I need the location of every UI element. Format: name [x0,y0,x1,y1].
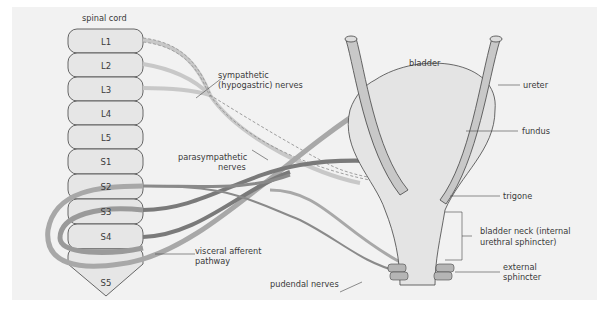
parasympathetic-label-1: parasympathetic [178,152,247,162]
bladder-label: bladder [409,58,440,68]
sympathetic-label-2: (hypogastric) nerves [218,80,303,90]
segment-l2: L2 [76,61,136,71]
spinal-cord-label: spinal cord [82,13,127,23]
external-sphincter-label-1: external [503,262,537,272]
segment-s4: S4 [76,232,136,242]
ureter-label: ureter [523,80,548,90]
segment-l5: L5 [76,133,136,143]
segment-s1: S1 [76,157,136,167]
trigone-label: trigone [503,191,532,201]
bladder-neck-label-1: bladder neck (internal [480,226,571,236]
segment-l3: L3 [76,85,136,95]
segment-l1: L1 [76,37,136,47]
segment-l4: L4 [76,109,136,119]
visceral-label-2: pathway [195,256,230,266]
bladder [345,36,502,285]
segment-s5: S5 [76,278,136,288]
segment-s3: S3 [76,207,136,217]
segment-s2: S2 [76,182,136,192]
bladder-neck-label-2: urethral sphincter) [480,237,557,247]
fundus-label: fundus [522,126,550,136]
sympathetic-label-1: sympathetic [218,70,269,80]
parasympathetic-label-2: nerves [218,162,246,172]
external-sphincter-label-2: sphincter [503,272,541,282]
visceral-label-1: visceral afferent [195,246,262,256]
pudendal-label: pudendal nerves [270,279,339,289]
